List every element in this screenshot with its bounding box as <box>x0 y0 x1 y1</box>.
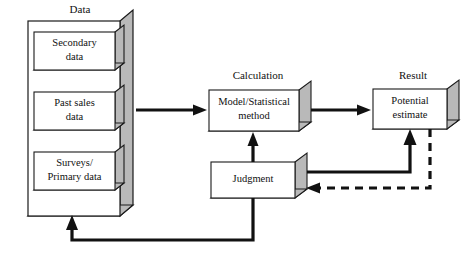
potential-estimate-label-line2: estimate <box>393 109 428 120</box>
arrowhead-result-to-judgment <box>306 183 320 194</box>
data-group-label: Data <box>70 3 91 15</box>
box-potential-estimate: Potential estimate <box>373 80 459 129</box>
result-group-label: Result <box>399 69 427 81</box>
arrowhead-calculation-to-result <box>357 105 371 116</box>
box-past-sales-data: Past sales data <box>34 85 124 130</box>
arrowhead-judgment-to-data <box>66 215 78 230</box>
arrowhead-judgment-to-result <box>404 129 417 145</box>
connector-judgment-to-result <box>307 129 417 172</box>
box-surveys-primary-data: Surveys/ Primary data <box>34 145 124 190</box>
connector-judgment-to-calculation <box>248 132 259 162</box>
judgment-label: Judgment <box>233 173 274 184</box>
model-method-label-line1: Model/Statistical <box>218 96 290 107</box>
surveys-primary-data-label-line2: Primary data <box>48 171 102 182</box>
connector-data-to-calculation <box>136 105 207 116</box>
diagram-canvas: Data Secondary data Past sales data Surv… <box>0 0 472 256</box>
arrowhead-data-to-calculation <box>193 105 207 116</box>
past-sales-data-label-line1: Past sales <box>54 97 95 108</box>
surveys-primary-data-label-line1: Surveys/ <box>56 157 93 168</box>
box-model-statistical-method: Model/Statistical method <box>209 81 311 131</box>
potential-estimate-label-line1: Potential <box>391 95 428 106</box>
secondary-data-label-line2: data <box>66 51 84 62</box>
past-sales-data-label-line2: data <box>66 111 84 122</box>
box-secondary-data: Secondary data <box>34 25 124 70</box>
arrowhead-judgment-to-calculation <box>248 132 259 146</box>
calculation-group-label: Calculation <box>233 69 284 81</box>
model-method-label-line2: method <box>238 110 270 121</box>
connector-calculation-to-result <box>311 105 371 116</box>
secondary-data-label-line1: Secondary <box>52 37 97 48</box>
process-flow-diagram: Data Secondary data Past sales data Surv… <box>0 0 472 256</box>
box-judgment: Judgment <box>211 153 307 198</box>
